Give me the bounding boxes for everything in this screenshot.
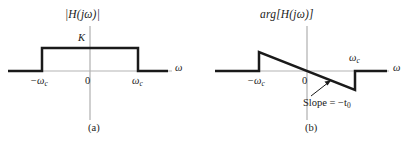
tick-label-negative-omega-c: −ωc [30,76,48,87]
panel-magnitude-response: |H(jω)| K −ωc 0 ωc ω (a) [0,0,206,145]
panel-caption-b: (b) [305,123,317,134]
level-label-k: K [78,33,85,44]
magnitude-response-curve [8,48,168,71]
panel-caption-a: (a) [88,123,100,134]
magnitude-title-label: |H(jω)| [65,9,100,21]
panel-phase-response: arg[H(jω)] −ωc 0 ωc ω Slope = −t0 (b) [207,0,413,145]
slope-annotation-label: Slope = −t0 [303,98,351,109]
tick-label-negative-omega-c: −ωc [247,76,265,87]
x-axis-label-omega: ω [175,63,182,74]
x-axis-label-omega: ω [393,63,400,74]
phase-title-label: arg[H(jω)] [260,9,314,21]
origin-label: 0 [85,76,90,87]
tick-label-omega-c: ωc [132,76,143,87]
tick-label-omega-c: ωc [349,53,360,64]
figure-container: |H(jω)| K −ωc 0 ωc ω (a) arg[H(jω)] −ωc … [0,0,413,145]
annotation-leader-line [311,82,329,96]
origin-label: 0 [302,76,307,87]
